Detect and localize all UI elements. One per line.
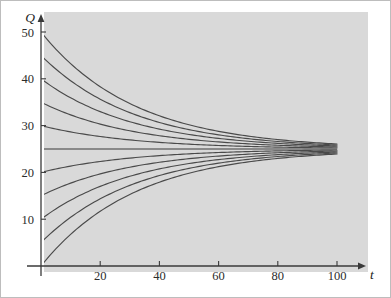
x-tick-label: 60	[212, 269, 225, 283]
x-tick-label: 40	[153, 269, 166, 283]
y-tick-label: 30	[22, 119, 35, 133]
y-tick-label: 20	[22, 166, 35, 180]
solution-curves-chart: 204060801001020304050Qt	[0, 0, 391, 298]
y-tick-label: 50	[22, 26, 35, 40]
x-tick-label: 20	[94, 269, 107, 283]
x-tick-label: 80	[272, 269, 285, 283]
y-tick-label: 40	[22, 72, 35, 86]
x-tick-label: 100	[328, 269, 347, 283]
y-tick-label: 10	[22, 213, 35, 227]
plot-panel	[44, 12, 368, 272]
y-axis-label: Q	[25, 10, 35, 25]
figure-container: 204060801001020304050Qt	[0, 0, 391, 298]
